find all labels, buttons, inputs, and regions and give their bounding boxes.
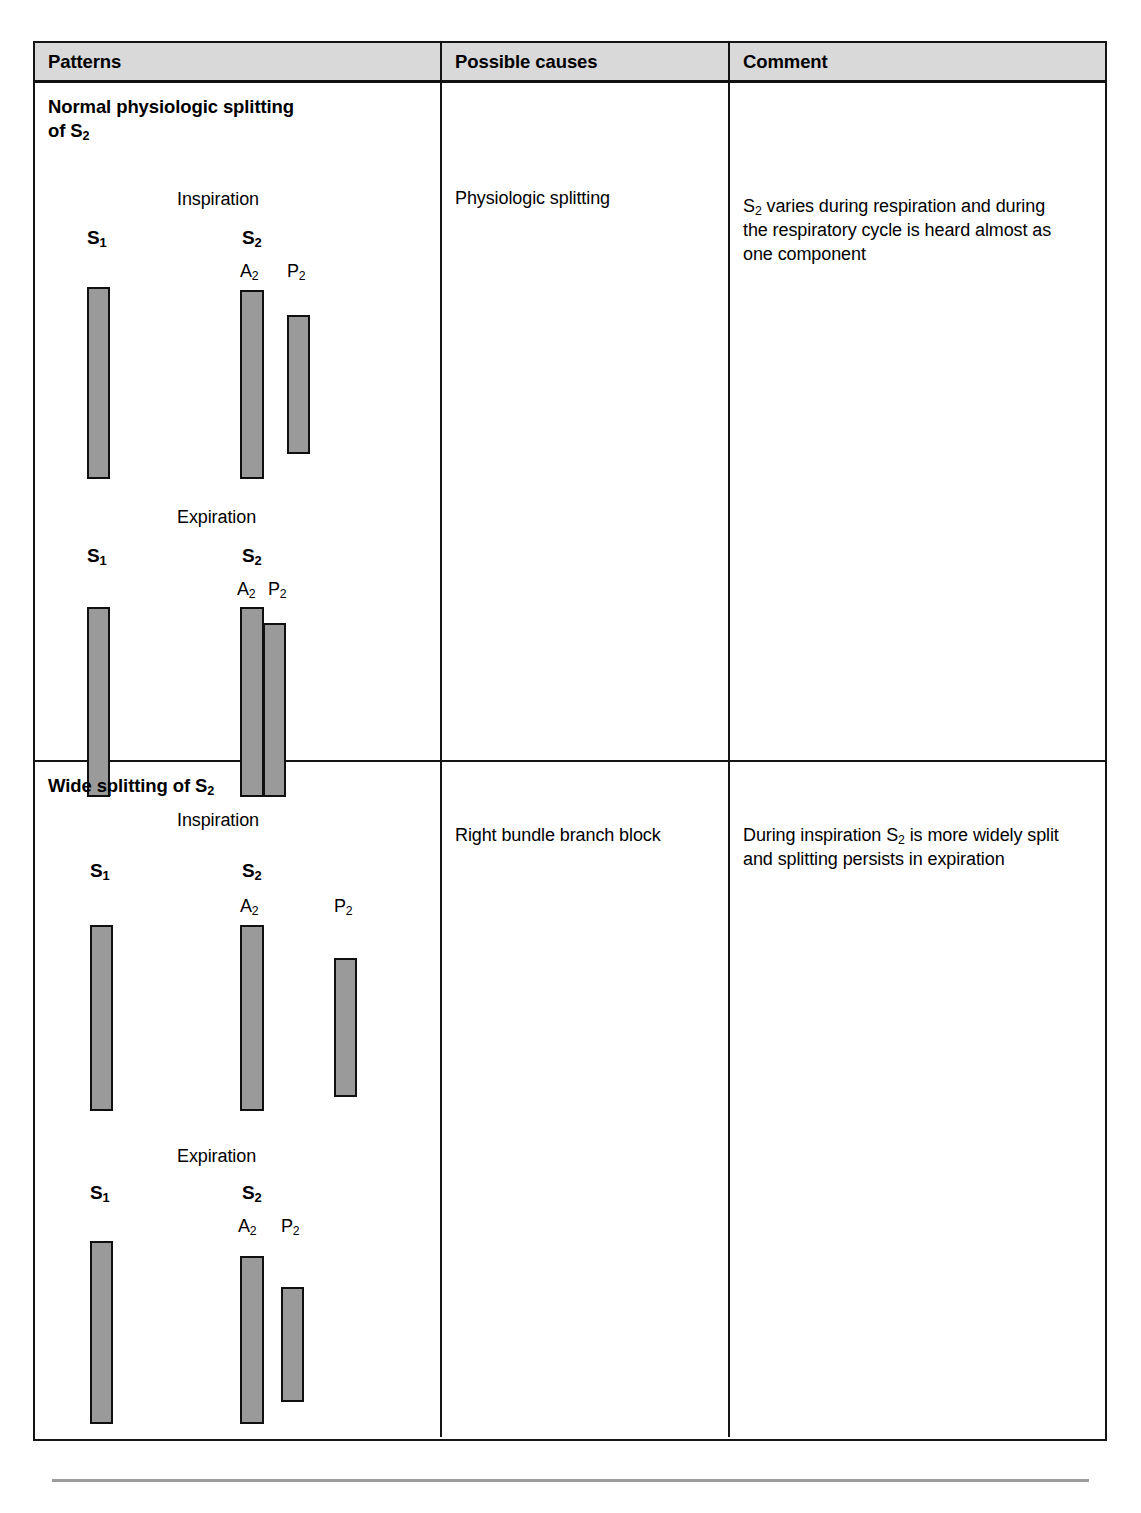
subscript: 2 [207, 784, 214, 798]
column-header-comment: Comment [730, 43, 1105, 80]
a2-label-inspiration: A2 [240, 261, 258, 282]
bar-p2-inspiration [334, 958, 357, 1097]
expiration-label: Expiration [177, 507, 256, 528]
p2-label-inspiration: P2 [287, 261, 305, 282]
s2-label-expiration: S2 [242, 545, 261, 567]
bar-s1-expiration [90, 1241, 113, 1424]
pattern-title: Normal physiologic splitting of S2 [48, 95, 378, 142]
pattern-cell-normal-physiologic-splitting: Normal physiologic splitting of S2 Inspi… [35, 83, 442, 760]
causes-cell-wide-splitting: Right bundle branch block [442, 762, 730, 1437]
bar-a2-inspiration [240, 290, 264, 479]
bar-a2-expiration [240, 1256, 264, 1424]
pattern-title: Wide splitting of S2 [48, 774, 378, 798]
p2-label-inspiration: P2 [334, 896, 352, 917]
comment-text: S2 varies during respiration and during … [743, 195, 1073, 267]
p2-label-expiration: P2 [268, 579, 286, 600]
bar-s1-inspiration [90, 925, 113, 1111]
table-header-row: Patterns Possible causes Comment [35, 43, 1105, 83]
a2-label-inspiration: A2 [240, 896, 258, 917]
comment-text: During inspiration S2 is more widely spl… [743, 824, 1073, 872]
heart-sound-splitting-table: Patterns Possible causes Comment Normal … [33, 41, 1107, 1441]
bar-p2-expiration [281, 1287, 304, 1402]
s1-label-inspiration: S1 [90, 860, 109, 882]
p2-label-expiration: P2 [281, 1216, 299, 1237]
bar-p2-inspiration [287, 315, 310, 454]
causes-text: Right bundle branch block [455, 824, 700, 848]
comment-cell-wide-splitting: During inspiration S2 is more widely spl… [730, 762, 1105, 1437]
bar-s1-inspiration [87, 287, 110, 479]
expiration-label: Expiration [177, 1146, 256, 1167]
comment-cell-normal-physiologic-splitting: S2 varies during respiration and during … [730, 83, 1105, 760]
a2-label-expiration: A2 [238, 1216, 256, 1237]
table-row: Wide splitting of S2 Inspiration S1 S2 A… [35, 762, 1105, 1437]
footer-divider-rule [52, 1479, 1089, 1482]
s1-label-inspiration: S1 [87, 227, 106, 249]
bar-a2-inspiration [240, 925, 264, 1111]
s2-label-inspiration: S2 [242, 227, 261, 249]
s2-label-inspiration: S2 [242, 860, 261, 882]
column-header-patterns: Patterns [35, 43, 442, 80]
inspiration-label: Inspiration [177, 810, 259, 831]
causes-cell-normal-physiologic-splitting: Physiologic splitting [442, 83, 730, 760]
s1-label-expiration: S1 [87, 545, 106, 567]
pattern-cell-wide-splitting: Wide splitting of S2 Inspiration S1 S2 A… [35, 762, 442, 1437]
table-row: Normal physiologic splitting of S2 Inspi… [35, 83, 1105, 762]
s1-label-expiration: S1 [90, 1182, 109, 1204]
column-header-possible-causes: Possible causes [442, 43, 730, 80]
s2-label-expiration: S2 [242, 1182, 261, 1204]
a2-label-expiration: A2 [237, 579, 255, 600]
causes-text: Physiologic splitting [455, 187, 700, 211]
subscript: 2 [83, 129, 90, 143]
inspiration-label: Inspiration [177, 189, 259, 210]
